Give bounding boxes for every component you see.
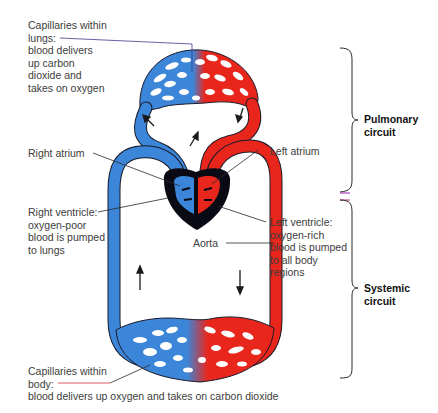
label-line: Capillaries within xyxy=(28,365,278,378)
label-line: takes on oxygen xyxy=(28,82,107,95)
label-line: dioxide and xyxy=(28,69,107,82)
arrow-down-icon xyxy=(236,108,243,122)
right-ventricle-label: Right ventricle: oxygen-poor blood is pu… xyxy=(28,206,105,256)
label-line: circuit xyxy=(364,126,418,139)
label-line: oxygen-poor xyxy=(28,219,105,232)
label-line: oxygen-rich xyxy=(270,229,347,242)
right-atrium-label: Right atrium xyxy=(28,147,85,160)
label-line: lungs: xyxy=(28,32,107,45)
pulmonary-circuit-label: Pulmonary circuit xyxy=(364,113,418,138)
label-line: to lungs xyxy=(28,244,105,257)
left-ventricle-label: Left ventricle: oxygen-rich blood is pum… xyxy=(270,216,347,279)
lung-capillaries-label: Capillaries within lungs: blood delivers… xyxy=(28,19,107,94)
label-line: up carbon xyxy=(28,57,107,70)
pulmonary-brace xyxy=(340,48,358,192)
label-line: blood delivers up oxygen and takes on ca… xyxy=(28,390,278,403)
arrow-down-icon-2 xyxy=(237,270,243,294)
label-line: Pulmonary xyxy=(364,113,418,126)
left-atrium-label: Left atrium xyxy=(270,145,320,158)
label-line: Left ventricle: xyxy=(270,216,347,229)
lung-capillary-bed xyxy=(140,50,258,110)
label-line: to all body xyxy=(270,254,347,267)
label-line: blood is pumped xyxy=(270,241,347,254)
label-line: Right ventricle: xyxy=(28,206,105,219)
label-line: body: xyxy=(28,378,278,391)
label-line: regions xyxy=(270,266,347,279)
systemic-circuit-label: Systemic circuit xyxy=(364,282,410,307)
label-line: blood delivers xyxy=(28,44,107,57)
arrow-up-right-icon xyxy=(190,132,198,146)
aorta-label: Aorta xyxy=(193,237,218,250)
label-line: Capillaries within xyxy=(28,19,107,32)
arrow-up-icon xyxy=(137,266,143,290)
label-line: Systemic xyxy=(364,282,410,295)
body-capillaries-label: Capillaries within body: blood delivers … xyxy=(28,365,278,403)
label-line: blood is pumped xyxy=(28,231,105,244)
label-line: circuit xyxy=(364,295,410,308)
